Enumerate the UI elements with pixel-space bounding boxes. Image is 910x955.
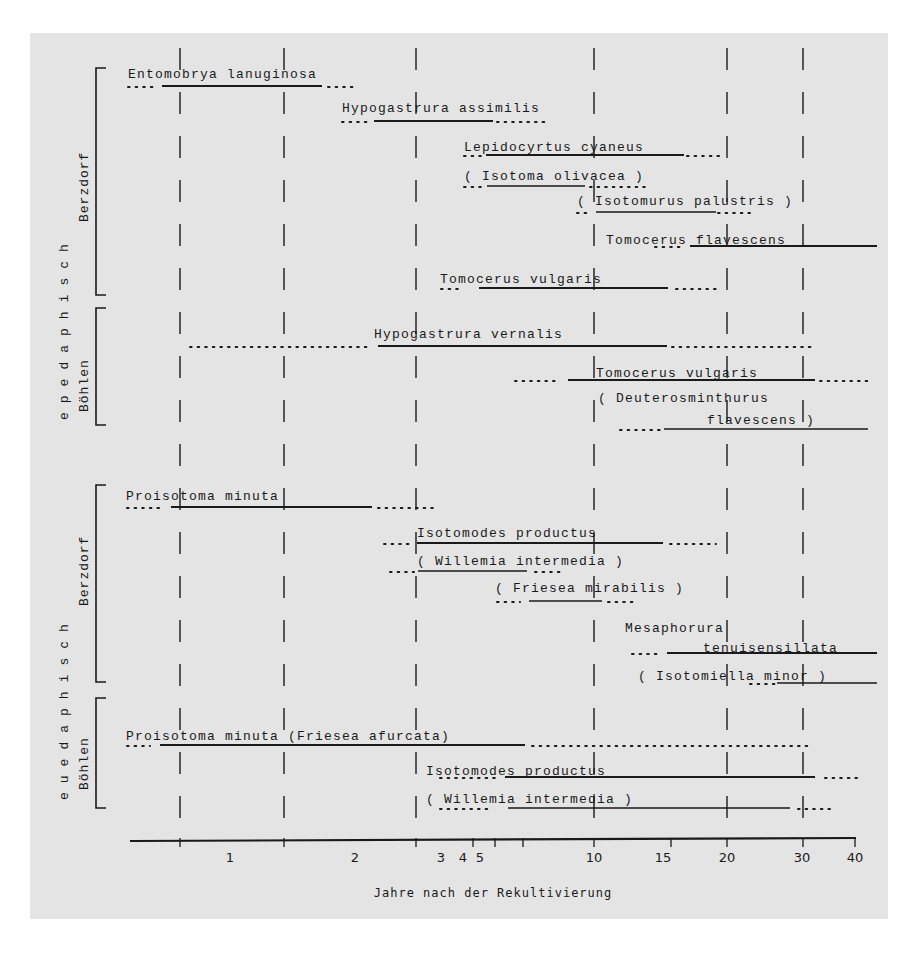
group-label-berzdorf-epi: Berzdorf bbox=[77, 152, 92, 222]
x-axis-title: Jahre nach der Rekultivierung bbox=[374, 886, 613, 900]
species-label: ( Willemia intermedia ) bbox=[417, 554, 624, 569]
x-axis-line bbox=[130, 838, 856, 841]
series-mesaphorura: Mesaphoruratenuisensillata bbox=[625, 621, 877, 656]
series-willemia-intermedia: ( Willemia intermedia ) bbox=[390, 554, 624, 572]
x-axis-tick-labels: 123451015203040 bbox=[226, 850, 863, 865]
group-bracket bbox=[96, 698, 106, 808]
axis-tick-label: 3 bbox=[437, 850, 445, 865]
side-labels: epedaphisch euedaphisch Berzdorf Böhlen … bbox=[57, 152, 92, 800]
species-label: Entomobrya lanuginosa bbox=[128, 67, 317, 82]
axis-tick-label: 40 bbox=[847, 850, 864, 865]
series-hypogastrura-assimilis: Hypogastrura assimilis bbox=[342, 101, 545, 122]
series-isotomodes-productus: Isotomodes productus bbox=[384, 526, 716, 544]
species-label: Lepidocyrtus cyaneus bbox=[464, 140, 644, 155]
group-bracket bbox=[96, 485, 106, 682]
series-proisotoma-minuta: Proisotoma minuta bbox=[126, 489, 437, 508]
species-label: ( Isotomurus palustris ) bbox=[577, 194, 793, 209]
series-tomocerus-flavescens: Tomocerus flavescens bbox=[606, 233, 877, 248]
series-isotomodes-productus: Isotomodes productus bbox=[426, 764, 860, 779]
group-bracket bbox=[96, 68, 106, 295]
species-label: ( Isotomiella minor ) bbox=[638, 669, 827, 684]
series-isotoma-olivacea: ( Isotoma olivacea ) bbox=[464, 169, 650, 187]
group-bracket bbox=[96, 308, 106, 425]
species-label: ( Isotoma olivacea ) bbox=[464, 169, 644, 184]
species-timeline-chart: epedaphisch euedaphisch Berzdorf Böhlen … bbox=[0, 0, 910, 955]
series-friesea-mirabilis: ( Friesea mirabilis ) bbox=[495, 581, 684, 602]
species-label: Isotomodes productus bbox=[417, 526, 597, 541]
axis-tick-label: 5 bbox=[476, 850, 484, 865]
series-isotomiella-minor: ( Isotomiella minor ) bbox=[638, 669, 877, 684]
group-brackets bbox=[96, 68, 106, 808]
species-label: Proisotoma minuta (Friesea afurcata) bbox=[126, 729, 450, 744]
series-tomocerus-vulgaris: Tomocerus vulgaris bbox=[515, 366, 868, 381]
axis-tick-label: 20 bbox=[719, 850, 736, 865]
species-label: Mesaphorura bbox=[625, 621, 724, 636]
species-label-line2: flavescens ) bbox=[707, 413, 815, 428]
axis-tick-label: 1 bbox=[226, 850, 234, 865]
x-axis: 123451015203040 Jahre nach der Rekultivi… bbox=[130, 838, 863, 900]
dashed-gridlines bbox=[180, 48, 803, 830]
axis-tick-label: 10 bbox=[586, 850, 603, 865]
axis-tick-label: 2 bbox=[351, 850, 359, 865]
series-deuterosminthurus: ( Deuterosminthurusflavescens ) bbox=[598, 391, 868, 430]
group-label-berzdorf-eu: Berzdorf bbox=[77, 536, 92, 606]
zone-label-euedaphisch: euedaphisch bbox=[57, 615, 72, 800]
zone-label-epedaphisch: epedaphisch bbox=[57, 235, 72, 420]
species-label: ( Deuterosminthurus bbox=[598, 391, 769, 406]
species-label: Tomocerus vulgaris bbox=[596, 366, 758, 381]
species-label: ( Friesea mirabilis ) bbox=[495, 581, 684, 596]
series-lepidocyrtus-cyaneus: Lepidocyrtus cyaneus bbox=[464, 140, 722, 156]
group-label-boehlen-eu: Böhlen bbox=[77, 737, 92, 790]
species-label: ( Willemia intermedia ) bbox=[426, 792, 633, 807]
series-tomocerus-vulgaris: Tomocerus vulgaris bbox=[440, 272, 718, 289]
species-label: Hypogastrura vernalis bbox=[374, 327, 563, 342]
series-willemia-intermedia: ( Willemia intermedia ) bbox=[426, 792, 830, 809]
axis-tick-label: 30 bbox=[794, 850, 811, 865]
axis-tick-label: 4 bbox=[459, 850, 467, 865]
series-entomobrya-lanuginosa: Entomobrya lanuginosa bbox=[128, 67, 358, 87]
species-series: Entomobrya lanuginosaHypogastrura assimi… bbox=[126, 67, 877, 809]
species-label: Hypogastrura assimilis bbox=[342, 101, 540, 116]
species-label: Proisotoma minuta bbox=[126, 489, 279, 504]
axis-tick-label: 15 bbox=[655, 850, 672, 865]
species-label: Tomocerus vulgaris bbox=[440, 272, 602, 287]
group-label-boehlen-epi: Böhlen bbox=[77, 359, 92, 412]
series-proisotoma-minuta-friesea-afurcata: Proisotoma minuta (Friesea afurcata) bbox=[126, 729, 812, 746]
series-isotomurus-palustris: ( Isotomurus palustris ) bbox=[577, 194, 793, 213]
